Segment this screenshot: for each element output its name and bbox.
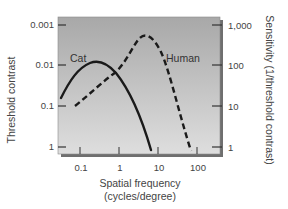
x-axis-title-line1: Spatial frequency bbox=[99, 177, 181, 189]
chart-figure: 0.001 0.01 0.1 1 1,000 100 10 1 0.1 1 10… bbox=[0, 0, 288, 209]
y-axis-right-title: Sensitivity (1/threshold contrast) bbox=[264, 15, 276, 164]
human-label: Human bbox=[166, 52, 200, 64]
y-tick-label: 1 bbox=[49, 141, 54, 152]
y-right-tick-label: 10 bbox=[228, 101, 239, 112]
y-axis-left-labels: 0.001 0.01 0.1 1 bbox=[30, 19, 54, 152]
x-axis-title-line2: (cycles/degree) bbox=[104, 190, 176, 202]
y-tick-label: 0.1 bbox=[41, 100, 54, 111]
x-tick-label: 1 bbox=[117, 162, 122, 173]
y-axis-right-labels: 1,000 100 10 1 bbox=[228, 20, 252, 153]
y-tick-label: 0.01 bbox=[36, 59, 55, 70]
y-right-tick-label: 1,000 bbox=[228, 20, 252, 31]
y-tick-label: 0.001 bbox=[30, 19, 54, 30]
y-right-tick-label: 1 bbox=[228, 142, 233, 153]
plot-area bbox=[58, 17, 220, 154]
x-axis-labels: 0.1 1 10 100 bbox=[74, 162, 206, 173]
cat-label: Cat bbox=[70, 52, 86, 64]
y-axis-title: Threshold contrast bbox=[5, 56, 17, 143]
x-tick-label: 10 bbox=[154, 162, 165, 173]
x-tick-label: 0.1 bbox=[74, 162, 87, 173]
x-tick-label: 100 bbox=[190, 162, 206, 173]
y-right-tick-label: 100 bbox=[228, 60, 244, 71]
